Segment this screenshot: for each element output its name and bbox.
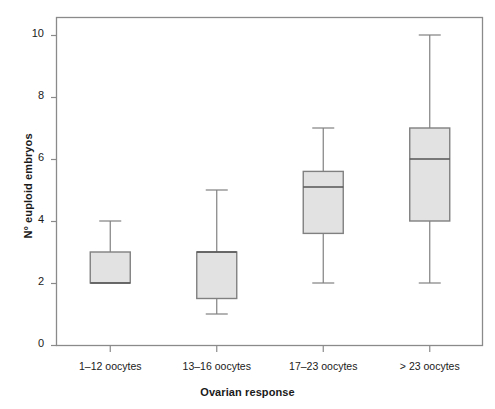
y-tick-label: 4 bbox=[18, 213, 44, 225]
box-plot-item bbox=[410, 35, 450, 283]
y-tick-label: 0 bbox=[18, 337, 44, 349]
box-iqr bbox=[410, 128, 450, 221]
box-plot-figure: N° euploid embryos Ovarian response 0246… bbox=[0, 0, 495, 409]
x-tick-label: 17–23 oocytes bbox=[263, 360, 383, 372]
x-tick-label: > 23 oocytes bbox=[370, 360, 490, 372]
x-axis-title: Ovarian response bbox=[0, 386, 495, 398]
box-plot-item bbox=[303, 128, 343, 283]
y-tick-label: 10 bbox=[18, 27, 44, 39]
x-tick-label: 13–16 oocytes bbox=[157, 360, 277, 372]
box-plot-series bbox=[90, 35, 450, 314]
box-plot-item bbox=[90, 221, 130, 283]
x-tick-label: 1–12 oocytes bbox=[50, 360, 170, 372]
y-tick-label: 2 bbox=[18, 275, 44, 287]
plot-canvas bbox=[0, 0, 495, 409]
y-tick-label: 6 bbox=[18, 151, 44, 163]
box-iqr bbox=[90, 252, 130, 283]
box-iqr bbox=[197, 252, 237, 299]
y-axis-title: N° euploid embryos bbox=[22, 96, 34, 276]
y-tick-label: 8 bbox=[18, 89, 44, 101]
box-plot-item bbox=[197, 190, 237, 314]
box-iqr bbox=[303, 171, 343, 233]
